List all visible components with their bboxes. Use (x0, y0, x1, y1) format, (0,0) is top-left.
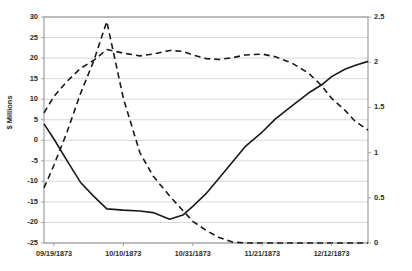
chart-plot-area (0, 0, 412, 271)
y-axis-tick-label: 5 (6, 116, 38, 124)
x-axis-tick-label: 11/21/1873 (222, 250, 302, 258)
y-axis-tick-label: 25 (6, 34, 38, 42)
secondary-y-axis-tick-label: 1 (374, 149, 410, 157)
x-axis-tick-label: 10/31/1873 (153, 250, 233, 258)
secondary-y-axis-tick-label: 2.5 (374, 13, 410, 21)
y-axis-tick-label: -15 (6, 198, 38, 206)
secondary-y-axis-tick-label: 1.5 (374, 103, 410, 111)
chart-container: $ Millions 302520151050-5-10-15-20-25 2.… (0, 0, 412, 271)
y-axis-tick-label: 15 (6, 75, 38, 83)
x-axis-tick-label: 09/19/1873 (14, 250, 94, 258)
y-axis-tick-label: 20 (6, 54, 38, 62)
y-axis-tick-label: -25 (6, 239, 38, 247)
y-axis-tick-label: 10 (6, 95, 38, 103)
y-axis-tick-label: 30 (6, 13, 38, 21)
secondary-y-axis-tick-label: 0.5 (374, 194, 410, 202)
y-axis-tick-label: 0 (6, 136, 38, 144)
y-axis-tick-label: -5 (6, 157, 38, 165)
secondary-y-axis-tick-label: 2 (374, 58, 410, 66)
x-axis-tick-label: 12/12/1873 (292, 250, 372, 258)
y-axis-tick-label: -20 (6, 218, 38, 226)
y-axis-tick-label: -10 (6, 177, 38, 185)
secondary-y-axis-tick-label: 0 (374, 239, 410, 247)
x-axis-tick-label: 10/10/1873 (83, 250, 163, 258)
